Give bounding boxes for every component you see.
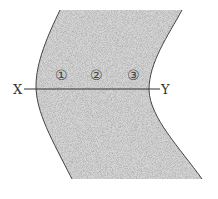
point-1-label: ① bbox=[55, 68, 68, 82]
label-x: X bbox=[13, 83, 22, 96]
river-channel bbox=[36, 10, 202, 179]
river-diagram bbox=[0, 0, 218, 199]
point-2-label: ② bbox=[90, 68, 103, 82]
label-y: Y bbox=[161, 83, 170, 96]
point-3-label: ③ bbox=[127, 68, 140, 82]
